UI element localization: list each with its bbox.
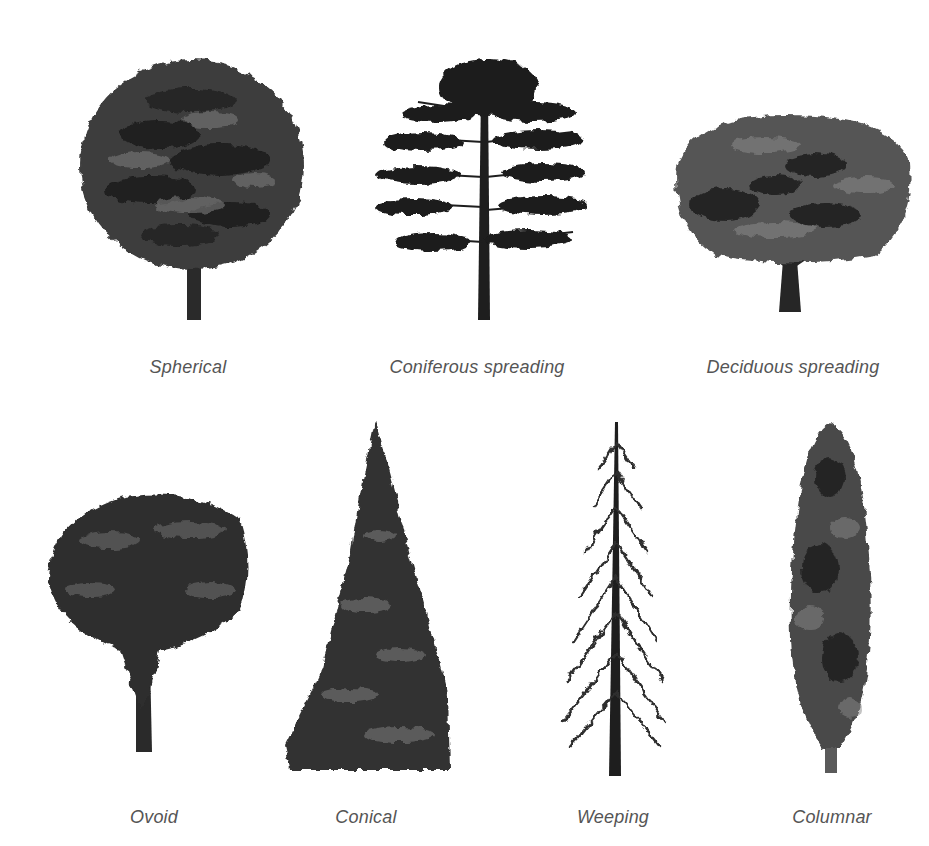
label-ovoid: Ovoid	[130, 807, 178, 828]
conical-tree	[280, 415, 455, 775]
deciduous-spreading-tree-icon	[665, 105, 920, 315]
label-spherical: Spherical	[150, 357, 227, 378]
weeping-tree	[555, 412, 675, 780]
label-coniferous-spreading: Coniferous spreading	[389, 357, 564, 378]
ovoid-tree-icon	[40, 480, 260, 755]
label-columnar: Columnar	[792, 807, 872, 828]
label-weeping: Weeping	[577, 807, 649, 828]
weeping-tree-icon	[555, 412, 675, 780]
columnar-tree	[785, 418, 880, 776]
coniferous-spreading-tree	[378, 42, 608, 327]
coniferous-spreading-tree-icon	[378, 42, 608, 327]
label-deciduous-spreading: Deciduous spreading	[707, 357, 880, 378]
conical-tree-icon	[280, 415, 455, 775]
columnar-tree-icon	[785, 418, 880, 776]
spherical-tree	[70, 40, 310, 325]
ovoid-tree	[40, 480, 260, 755]
deciduous-spreading-tree	[665, 105, 920, 315]
label-conical: Conical	[335, 807, 396, 828]
spherical-tree-icon	[70, 40, 310, 325]
